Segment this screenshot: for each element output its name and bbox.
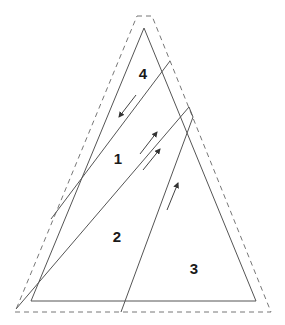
arrow-region-3-icon [167,183,178,210]
cut-line-a [51,61,170,219]
region-label-2: 2 [113,229,121,244]
cut-line-b [16,107,193,312]
direction-arrows [119,95,178,210]
outer-dashed-outline [15,16,271,312]
region-label-3: 3 [190,261,198,276]
arrow-region-4-icon [119,95,136,117]
arrow-region-1a-icon [140,132,157,154]
region-label-1: 1 [114,151,122,166]
region-label-4: 4 [139,66,147,81]
arrow-region-1b-icon [143,149,160,170]
triangle-diagram [0,0,285,325]
